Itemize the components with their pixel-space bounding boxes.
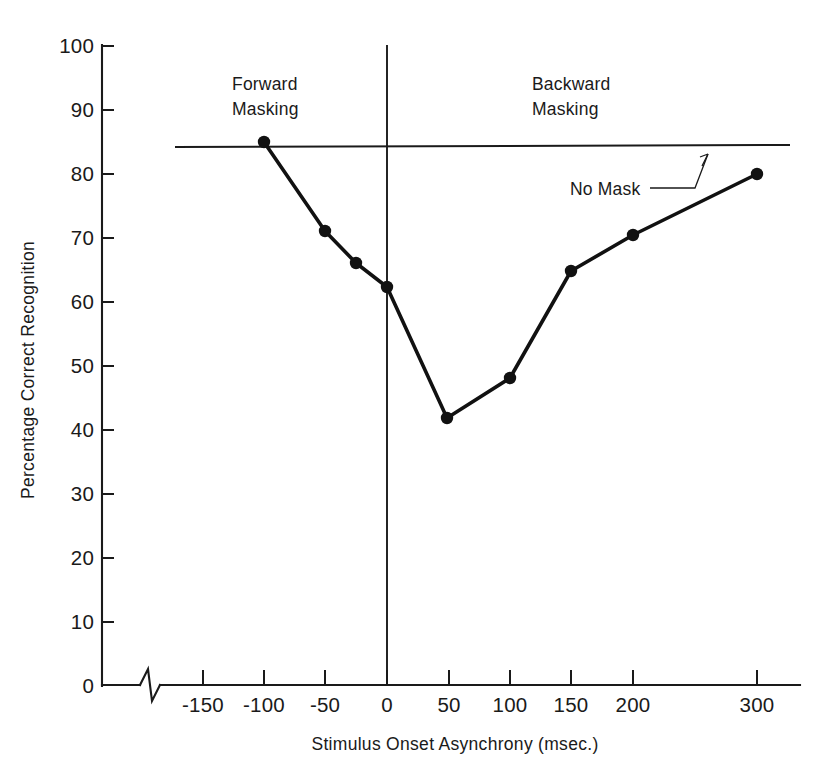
data-point xyxy=(319,225,331,237)
y-tick-label-90: 90 xyxy=(71,98,94,121)
data-point xyxy=(381,281,393,293)
x-tick-label-50: 50 xyxy=(437,693,460,716)
data-point xyxy=(441,412,453,424)
x-tick-label-300: 300 xyxy=(740,693,775,716)
forward-masking-label: Forward Masking xyxy=(232,74,299,119)
no-mask-label: No Mask xyxy=(570,179,640,199)
y-axis-title: Percentage Correct Recognition xyxy=(18,241,38,499)
x-axis-break-icon xyxy=(140,669,160,701)
x-tick-label--100: -100 xyxy=(243,693,285,716)
x-tick-label-0: 0 xyxy=(381,693,393,716)
y-tick-label-70: 70 xyxy=(71,226,94,249)
y-tick-label-100: 100 xyxy=(59,34,94,57)
line-chart-svg: 100 90 80 70 60 50 40 30 20 10 0 xyxy=(0,0,829,777)
backward-masking-line1: Backward xyxy=(532,74,610,94)
data-point xyxy=(350,257,362,269)
x-tick-label--50: -50 xyxy=(310,693,340,716)
y-tick-label-50: 50 xyxy=(71,354,94,377)
data-point xyxy=(627,229,639,241)
forward-masking-line2: Masking xyxy=(232,99,299,119)
y-tick-label-40: 40 xyxy=(71,418,94,441)
x-axis-title: Stimulus Onset Asynchrony (msec.) xyxy=(311,734,598,754)
y-axis: 100 90 80 70 60 50 40 30 20 10 0 xyxy=(59,34,114,697)
data-point xyxy=(258,136,270,148)
y-tick-label-30: 30 xyxy=(71,482,94,505)
x-axis: -150 -100 -50 0 50 100 150 200 300 xyxy=(102,669,800,716)
backward-masking-label: Backward Masking xyxy=(532,74,610,119)
data-point xyxy=(504,372,516,384)
x-tick-label-100: 100 xyxy=(493,693,528,716)
x-tick-label--150: -150 xyxy=(182,693,224,716)
chart-figure: 100 90 80 70 60 50 40 30 20 10 0 xyxy=(0,0,829,777)
forward-masking-line1: Forward xyxy=(232,74,298,94)
data-point xyxy=(751,168,763,180)
y-tick-label-80: 80 xyxy=(71,162,94,185)
x-tick-label-150: 150 xyxy=(554,693,589,716)
x-tick-label-200: 200 xyxy=(616,693,651,716)
y-tick-label-20: 20 xyxy=(71,546,94,569)
no-mask-leader xyxy=(650,154,708,188)
y-axis-origin-label: 0 xyxy=(82,674,94,697)
y-tick-label-10: 10 xyxy=(71,610,94,633)
no-mask-leader-line xyxy=(650,154,708,188)
y-tick-label-60: 60 xyxy=(71,290,94,313)
backward-masking-line2: Masking xyxy=(532,99,599,119)
data-point xyxy=(565,265,577,277)
series-markers xyxy=(258,136,763,424)
